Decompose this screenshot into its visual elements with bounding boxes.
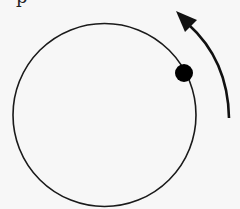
diagram-canvas [0, 0, 240, 209]
circular-motion-diagram: p [0, 0, 240, 209]
orbit-circle [13, 24, 196, 207]
particle-dot [175, 64, 193, 82]
